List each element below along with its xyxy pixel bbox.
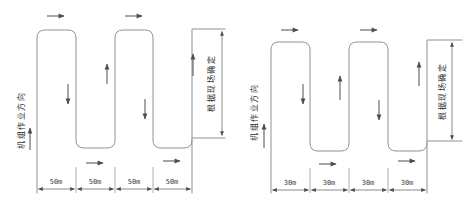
swath-width-label: 30m [284, 179, 297, 187]
swath-width-label: 50m [166, 178, 179, 186]
swath-dimension-row: 50m 50m 50m 50m [39, 178, 191, 189]
serpentine-path [37, 30, 192, 193]
working-direction-label: 机组作业方向 [249, 84, 259, 141]
pass-length-dimension: 根据现场确定 [206, 32, 222, 136]
field-operation-diagrams: 50m 50m 50m 50m 根据现场确定 机组作业方向 [0, 0, 468, 213]
working-direction-label: 机组作业方向 [16, 92, 26, 149]
diagram-canvas: 50m 50m 50m 50m 根据现场确定 机组作业方向 [0, 0, 468, 213]
swath-width-label: 50m [128, 178, 141, 186]
swath-width-label: 30m [362, 179, 375, 187]
swath-width-label: 50m [89, 178, 102, 186]
headland-note-label: 根据现场确定 [437, 63, 447, 120]
swath-width-label: 30m [401, 179, 414, 187]
swath-width-label: 50m [50, 178, 63, 186]
swath-width-label: 30m [323, 179, 336, 187]
diagram-50m: 50m 50m 50m 50m 根据现场确定 机组作业方向 [16, 16, 225, 193]
diagram-30m: 30m 30m 30m 30m 根据现场确定 机组作业方向 [249, 30, 462, 193]
headland-note-label: 根据现场确定 [206, 55, 216, 112]
pass-length-dimension: 根据现场确定 [437, 43, 452, 140]
